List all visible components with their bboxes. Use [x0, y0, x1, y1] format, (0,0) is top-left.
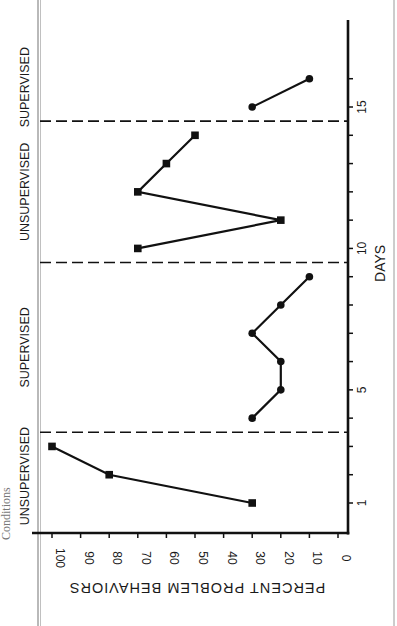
data-point-square: [248, 499, 256, 507]
y-axis-label: PERCENT PROBLEM BEHAVIORS: [69, 580, 326, 596]
y-tick-label: 0: [339, 555, 353, 562]
phase-label: UNSUPERVISED: [18, 427, 32, 525]
y-tick-label: 40: [225, 551, 239, 565]
phase-label: SUPERVISED: [18, 47, 32, 127]
y-tick-label: 50: [196, 551, 210, 565]
data-point-circle: [248, 103, 256, 111]
series-line: [52, 446, 252, 503]
x-tick-label: 10: [355, 241, 369, 255]
phase-change-lines: [40, 121, 348, 432]
phase-label: UNSUPERVISED: [18, 143, 32, 241]
y-tick-label: 70: [139, 551, 153, 565]
chart: Conditions 151015DAYS0102030405060708090…: [0, 0, 397, 626]
data-point-circle: [277, 358, 285, 366]
side-caption: Conditions: [0, 487, 13, 540]
y-tick-label: 60: [167, 551, 181, 565]
series-line: [138, 135, 281, 248]
data-point-square: [48, 443, 56, 451]
data-point-circle: [306, 273, 314, 281]
data-point-circle: [277, 301, 285, 309]
data-point-circle: [248, 329, 256, 337]
labels: 151015DAYS0102030405060708090100PERCENT …: [18, 47, 388, 596]
y-tick-label: 80: [110, 551, 124, 565]
x-tick-label: 15: [355, 100, 369, 114]
data-point-square: [191, 131, 199, 139]
data-point-square: [134, 245, 142, 253]
series-line: [252, 277, 309, 418]
data-point-square: [163, 160, 171, 168]
phase-label: SUPERVISED: [18, 307, 32, 387]
x-tick-label: 1: [355, 499, 369, 506]
data-point-circle: [306, 75, 314, 83]
x-axis-label: DAYS: [372, 245, 388, 282]
y-tick-label: 30: [253, 551, 267, 565]
x-tick-label: 5: [355, 386, 369, 393]
data-series: [48, 75, 313, 507]
y-tick-label: 90: [82, 551, 96, 565]
data-point-square: [105, 471, 113, 479]
y-tick-label: 100: [53, 548, 67, 568]
data-point-circle: [248, 414, 256, 422]
series-line: [252, 79, 309, 107]
y-tick-label: 20: [282, 551, 296, 565]
y-tick-label: 10: [310, 551, 324, 565]
data-point-square: [134, 188, 142, 196]
data-point-square: [277, 216, 285, 224]
data-point-circle: [277, 386, 285, 394]
